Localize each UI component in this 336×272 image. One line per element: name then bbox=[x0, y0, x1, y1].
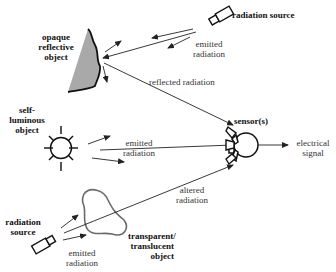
label-line: electrical bbox=[292, 138, 334, 148]
label-line: object bbox=[4, 125, 50, 135]
label-self-luminous-object: self- luminous object bbox=[4, 105, 50, 135]
label-opaque-object: opaque reflective object bbox=[34, 32, 78, 62]
label-line: signal bbox=[292, 148, 334, 158]
label-electrical-signal: electrical signal bbox=[292, 138, 334, 158]
label-line: emitted bbox=[189, 39, 229, 49]
label-line: altered bbox=[172, 185, 212, 195]
emitted-rays-mid bbox=[88, 136, 233, 162]
label-line: object bbox=[128, 251, 174, 261]
label-line: translucent bbox=[128, 241, 174, 251]
label-line: radiation bbox=[2, 217, 44, 227]
label-line: transparent/ bbox=[128, 231, 174, 241]
label-reflected-radiation: reflected radiation bbox=[149, 77, 215, 87]
label-line: radiation bbox=[118, 148, 160, 158]
label-line: emitted bbox=[62, 248, 102, 258]
label-line: radiation bbox=[172, 195, 212, 205]
label-line: opaque bbox=[34, 32, 78, 42]
label-sensor: sensor(s) bbox=[234, 116, 268, 126]
label-line: reflective bbox=[34, 42, 78, 52]
label-line: source bbox=[2, 227, 44, 237]
label-emitted-radiation-top: emitted radiation bbox=[189, 39, 229, 59]
label-line: emitted bbox=[118, 138, 160, 148]
label-emitted-radiation-bottom: emitted radiation bbox=[62, 248, 102, 268]
label-line: self- bbox=[4, 105, 50, 115]
label-emitted-radiation-mid: emitted radiation bbox=[118, 138, 160, 158]
label-radiation-source-bottom: radiation source bbox=[2, 217, 44, 237]
radiation-source-top-icon bbox=[208, 6, 233, 26]
radiation-source-bottom-icon bbox=[32, 235, 56, 254]
label-line: luminous bbox=[4, 115, 50, 125]
sensor-detector-pads bbox=[226, 127, 236, 164]
transparent-object bbox=[83, 190, 127, 235]
label-line: object bbox=[34, 52, 78, 62]
label-radiation-source-top: radiation source bbox=[232, 10, 295, 20]
label-line: radiation bbox=[62, 258, 102, 268]
label-altered-radiation: altered radiation bbox=[172, 185, 212, 205]
label-transparent-object: transparent/ translucent object bbox=[128, 231, 174, 261]
label-line: radiation bbox=[189, 49, 229, 59]
